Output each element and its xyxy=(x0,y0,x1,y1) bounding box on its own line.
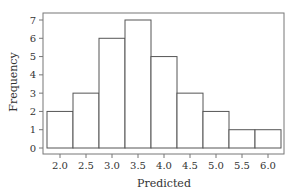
y-tick-label: 4 xyxy=(30,69,36,80)
histogram-bar xyxy=(255,130,281,148)
x-tick-label: 3.0 xyxy=(104,160,120,171)
y-axis-label: Frequency xyxy=(7,51,20,111)
histogram-bar xyxy=(151,57,177,148)
x-axis: 2.02.53.03.54.04.55.05.56.0 xyxy=(52,154,276,171)
y-tick-label: 0 xyxy=(30,143,36,154)
y-tick-label: 2 xyxy=(30,106,36,117)
histogram-bar xyxy=(47,111,73,148)
histogram-bar xyxy=(73,93,99,148)
histogram-bar xyxy=(99,38,125,148)
histogram-bar xyxy=(229,130,255,148)
histogram-chart: 01234567 2.02.53.03.54.04.55.05.56.0 Pre… xyxy=(0,0,299,195)
x-tick-label: 5.5 xyxy=(234,160,250,171)
histogram-bar xyxy=(125,20,151,148)
x-tick-label: 2.5 xyxy=(78,160,94,171)
y-tick-label: 3 xyxy=(30,88,36,99)
histogram-bar xyxy=(177,93,203,148)
y-tick-label: 6 xyxy=(30,33,36,44)
y-axis: 01234567 xyxy=(30,15,43,154)
y-tick-label: 5 xyxy=(30,51,36,62)
x-tick-label: 3.5 xyxy=(130,160,146,171)
y-tick-label: 1 xyxy=(30,124,36,135)
x-tick-label: 6.0 xyxy=(260,160,276,171)
histogram-bar xyxy=(203,111,229,148)
x-axis-label: Predicted xyxy=(137,177,191,190)
x-tick-label: 4.0 xyxy=(156,160,172,171)
x-tick-label: 2.0 xyxy=(52,160,68,171)
bars xyxy=(47,20,281,148)
x-tick-label: 5.0 xyxy=(208,160,224,171)
x-tick-label: 4.5 xyxy=(182,160,198,171)
y-tick-label: 7 xyxy=(30,15,36,26)
